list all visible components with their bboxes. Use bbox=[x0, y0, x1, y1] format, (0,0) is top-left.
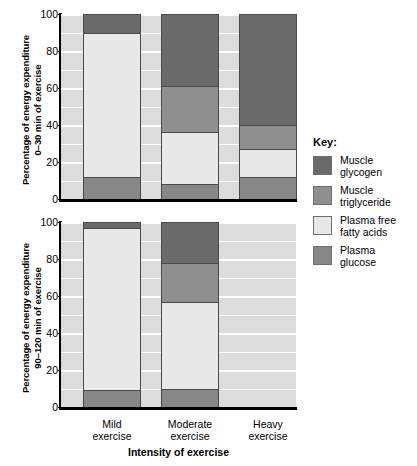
chart-panel-top: Percentage of energy expenditure 0–30 mi… bbox=[0, 14, 300, 206]
bar-mild-exercise[interactable] bbox=[83, 222, 141, 407]
y-tick-label: 20 bbox=[34, 157, 58, 167]
chart-panel-bottom: Percentage of energy expenditure 90–120 … bbox=[0, 222, 300, 414]
legend-item[interactable]: Muscle glycogen bbox=[313, 155, 417, 178]
bar-segment-plasma-glucose[interactable] bbox=[83, 177, 141, 199]
legend-key: Key: Muscle glycogenMuscle triglycerideP… bbox=[313, 136, 417, 275]
bar-segment-plasma-free-fatty-acids[interactable] bbox=[161, 302, 219, 389]
legend-item-label: Muscle glycogen bbox=[340, 155, 382, 178]
legend-item[interactable]: Plasma free fatty acids bbox=[313, 215, 417, 238]
y-tick-label: 20 bbox=[34, 365, 58, 375]
bar-segment-muscle-glycogen[interactable] bbox=[161, 222, 219, 263]
bar-segment-plasma-glucose[interactable] bbox=[83, 390, 141, 407]
bar-moderate-exercise[interactable] bbox=[161, 222, 219, 407]
y-tick-label: 60 bbox=[34, 291, 58, 301]
legend-item[interactable]: Muscle triglyceride bbox=[313, 185, 417, 208]
bar-segment-muscle-triglyceride[interactable] bbox=[161, 263, 219, 302]
y-tick-label: 80 bbox=[34, 254, 58, 264]
legend-item-label: Muscle triglyceride bbox=[340, 185, 391, 208]
bar-heavy-exercise[interactable] bbox=[239, 14, 297, 199]
legend-item-label: Plasma free fatty acids bbox=[340, 215, 396, 238]
bar-segment-plasma-glucose[interactable] bbox=[239, 177, 297, 199]
bar-mild-exercise[interactable] bbox=[83, 14, 141, 199]
legend-swatch-icon bbox=[313, 216, 332, 235]
bar-segment-muscle-glycogen[interactable] bbox=[83, 222, 141, 228]
y-tick-label: 80 bbox=[34, 46, 58, 56]
bar-segment-plasma-free-fatty-acids[interactable] bbox=[239, 149, 297, 177]
y-axis-ticks-top: 100806040200 bbox=[34, 14, 58, 199]
y-tick-label: 100 bbox=[34, 217, 58, 227]
legend-title: Key: bbox=[313, 136, 417, 148]
legend-item[interactable]: Plasma glucose bbox=[313, 245, 417, 268]
bar-segment-plasma-glucose[interactable] bbox=[161, 184, 219, 199]
x-axis-label-mild-exercise: Mild exercise bbox=[73, 418, 151, 442]
x-axis-label-heavy-exercise: Heavy exercise bbox=[229, 418, 307, 442]
bar-segment-muscle-triglyceride[interactable] bbox=[161, 86, 219, 132]
y-tick-label: 40 bbox=[34, 328, 58, 338]
y-tick-label: 60 bbox=[34, 83, 58, 93]
x-axis-title: Intensity of exercise bbox=[61, 446, 296, 458]
x-axis-line-top bbox=[59, 199, 297, 202]
plot-area-top bbox=[61, 14, 296, 199]
stacked-bar-figure: Percentage of energy expenditure 0–30 mi… bbox=[0, 0, 417, 466]
legend-items: Muscle glycogenMuscle triglyceridePlasma… bbox=[313, 155, 417, 268]
x-axis-line-bottom bbox=[59, 407, 297, 410]
legend-swatch-icon bbox=[313, 246, 332, 265]
bar-segment-plasma-free-fatty-acids[interactable] bbox=[83, 228, 141, 391]
bar-segment-muscle-glycogen[interactable] bbox=[161, 14, 219, 86]
bar-segment-plasma-free-fatty-acids[interactable] bbox=[161, 132, 219, 184]
plot-area-bottom bbox=[61, 222, 296, 407]
y-tick-label: 40 bbox=[34, 120, 58, 130]
bar-segment-muscle-triglyceride[interactable] bbox=[239, 125, 297, 149]
legend-swatch-icon bbox=[313, 156, 332, 175]
legend-swatch-icon bbox=[313, 186, 332, 205]
bar-segment-muscle-glycogen[interactable] bbox=[83, 14, 141, 33]
y-axis-ticks-bottom: 100806040200 bbox=[34, 222, 58, 407]
legend-item-label: Plasma glucose bbox=[340, 245, 376, 268]
y-tick-label: 100 bbox=[34, 9, 58, 19]
bar-segment-plasma-glucose[interactable] bbox=[161, 389, 219, 408]
bar-moderate-exercise[interactable] bbox=[161, 14, 219, 199]
y-tick-label: 0 bbox=[34, 402, 58, 412]
bar-segment-muscle-glycogen[interactable] bbox=[239, 14, 297, 125]
x-axis-label-moderate-exercise: Moderate exercise bbox=[151, 418, 229, 442]
bar-segment-plasma-free-fatty-acids[interactable] bbox=[83, 33, 141, 177]
y-tick-label: 0 bbox=[34, 194, 58, 204]
x-axis-labels: Mild exerciseModerate exerciseHeavy exer… bbox=[61, 418, 296, 444]
